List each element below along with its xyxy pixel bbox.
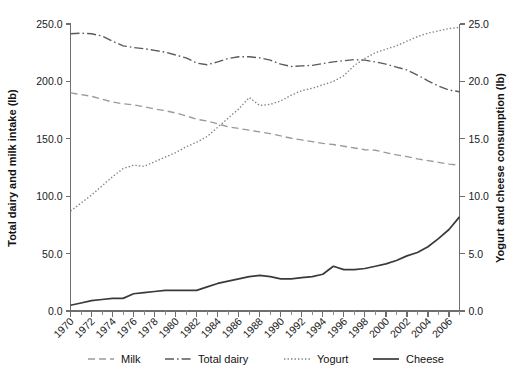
right-axis-tick-label: 25.0: [469, 18, 490, 30]
left-axis-tick-label: 250.0: [36, 18, 62, 30]
right-axis-tick-label: 15.0: [469, 133, 490, 145]
right-axis-tick-label: 0.0: [469, 305, 484, 317]
right-axis-tick-label: 5.0: [469, 248, 484, 260]
left-axis-tick-label: 0.0: [48, 305, 63, 317]
left-axis-tick-label: 200.0: [36, 75, 62, 87]
right-axis-tick-label: 10.0: [469, 190, 490, 202]
left-axis-tick-label: 50.0: [42, 248, 63, 260]
legend-label: Yogurt: [317, 353, 348, 365]
left-axis-tick-label: 100.0: [36, 190, 62, 202]
dairy-consumption-line-chart: 0.050.0100.0150.0200.0250.0 0.05.010.015…: [0, 0, 517, 377]
y-axis-title-right: Yogurt and cheese consumption (lb): [494, 73, 506, 263]
left-axis-tick-label: 150.0: [36, 133, 62, 145]
y-axis-title-left: Total dairy and milk intake (lb): [6, 89, 18, 247]
chart-figure: 0.050.0100.0150.0200.0250.0 0.05.010.015…: [0, 0, 517, 377]
legend-label: Total dairy: [198, 353, 249, 365]
legend-label: Milk: [121, 353, 141, 365]
right-axis-tick-label: 20.0: [469, 75, 490, 87]
legend-label: Cheese: [406, 353, 444, 365]
